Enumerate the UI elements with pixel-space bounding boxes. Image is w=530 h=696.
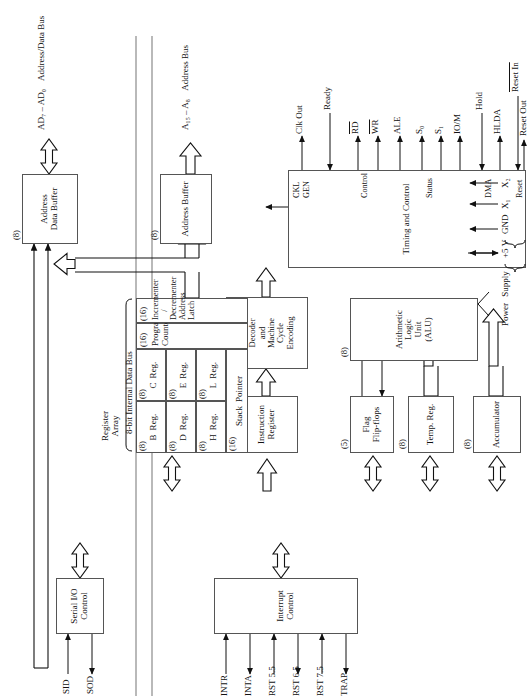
power-supply-connectors: [0, 0, 530, 696]
diagram-canvas: Serial I/O Control SID SOD Interrupt Con…: [0, 0, 530, 696]
diagram-rotated-layer: Serial I/O Control SID SOD Interrupt Con…: [0, 0, 530, 696]
